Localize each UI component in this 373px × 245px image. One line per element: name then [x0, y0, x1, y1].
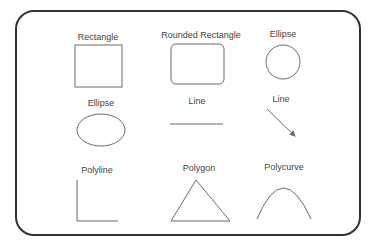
rounded-rectangle-shape — [171, 44, 224, 84]
label-polyline: Polyline — [81, 165, 113, 175]
triangle-shape — [171, 180, 230, 221]
label-rounded-rectangle: Rounded Rectangle — [161, 30, 241, 40]
diagonal-arrow-line-shape — [267, 109, 295, 136]
rectangle-shape — [75, 45, 122, 87]
label-polygon: Polygon — [183, 163, 216, 173]
label-line-diagonal: Line — [272, 94, 289, 104]
label-polycurve: Polycurve — [264, 162, 304, 172]
label-ellipse-circle: Ellipse — [270, 29, 297, 39]
curve-shape — [257, 188, 311, 219]
outer-frame — [16, 11, 360, 235]
shapes-diagram: Rectangle Rounded Rectangle Ellipse Elli… — [0, 0, 373, 245]
label-ellipse: Ellipse — [88, 98, 115, 108]
label-rectangle: Rectangle — [78, 32, 119, 42]
ellipse-shape — [77, 114, 125, 146]
polyline-shape — [77, 180, 118, 221]
circle-shape — [266, 45, 300, 79]
label-line-horizontal: Line — [188, 96, 205, 106]
